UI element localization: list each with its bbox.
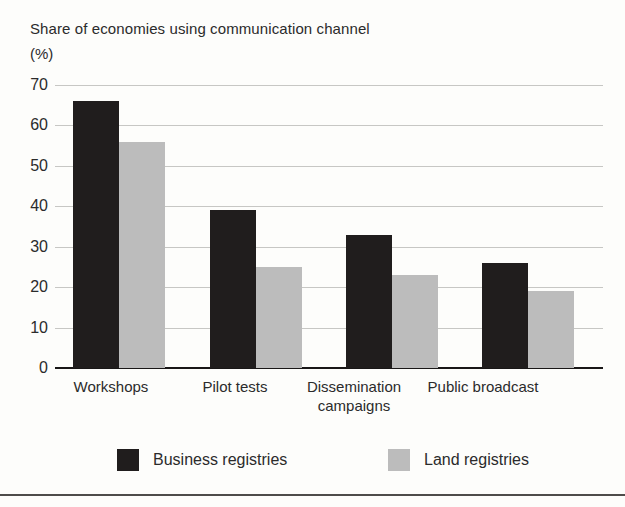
gridline-60 xyxy=(55,125,603,126)
bar-land-registries-dissemination-campaigns xyxy=(392,275,438,368)
chart-title: Share of economies using communication c… xyxy=(30,20,370,37)
y-tick-label-50: 50 xyxy=(0,157,48,175)
y-tick-label-0: 0 xyxy=(0,359,48,377)
bottom-divider-rule xyxy=(0,494,625,496)
figure-page: Share of economies using communication c… xyxy=(0,0,625,507)
chart-units-label: (%) xyxy=(30,45,53,62)
y-tick-label-70: 70 xyxy=(0,76,48,94)
legend-swatch-land-registries xyxy=(388,449,410,471)
legend-label-land-registries: Land registries xyxy=(424,451,529,469)
legend-item-business-registries: Business registries xyxy=(117,449,287,471)
y-tick-label-30: 30 xyxy=(0,238,48,256)
y-tick-label-10: 10 xyxy=(0,319,48,337)
gridline-70 xyxy=(55,85,603,86)
bar-land-registries-public-broadcast xyxy=(528,291,574,368)
legend-label-business-registries: Business registries xyxy=(153,451,287,469)
bar-business-registries-dissemination-campaigns xyxy=(346,235,392,368)
plot-area xyxy=(55,85,603,368)
y-tick-label-60: 60 xyxy=(0,116,48,134)
bar-business-registries-pilot-tests xyxy=(210,210,256,368)
legend-item-land-registries: Land registries xyxy=(388,449,529,471)
y-tick-label-40: 40 xyxy=(0,197,48,215)
x-axis-label-public-broadcast: Public broadcast xyxy=(403,377,563,396)
legend-swatch-business-registries xyxy=(117,449,139,471)
bar-business-registries-workshops xyxy=(73,101,119,368)
bar-land-registries-pilot-tests xyxy=(256,267,302,368)
y-tick-label-20: 20 xyxy=(0,278,48,296)
bar-land-registries-workshops xyxy=(119,142,165,368)
bar-business-registries-public-broadcast xyxy=(482,263,528,368)
